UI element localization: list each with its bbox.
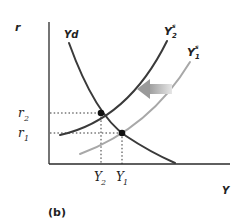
tick-label-y2: Y 2 xyxy=(94,170,106,187)
tick-label-r2: r 2 xyxy=(18,106,29,123)
equilibrium-point-2 xyxy=(98,110,105,117)
x-axis-label: Y xyxy=(222,185,231,196)
supply-curve-y1-label: Y s 1 xyxy=(187,43,200,61)
supply-curve-y1 xyxy=(80,62,190,154)
svg-text:2: 2 xyxy=(172,32,177,40)
demand-curve-label: Yd xyxy=(64,29,79,40)
svg-text:s: s xyxy=(195,43,199,50)
equilibrium-point-1 xyxy=(119,130,126,137)
svg-text:2: 2 xyxy=(100,178,106,187)
svg-text:2: 2 xyxy=(23,114,29,123)
panel-label: (b) xyxy=(48,206,66,219)
tick-label-r1: r 1 xyxy=(18,126,29,143)
svg-text:1: 1 xyxy=(123,178,128,187)
svg-text:1: 1 xyxy=(195,53,200,61)
tick-label-y1: Y 1 xyxy=(116,170,128,187)
svg-text:s: s xyxy=(172,22,176,29)
svg-text:1: 1 xyxy=(24,134,29,143)
economics-diagram: r Y Yd Y s 2 Y s 1 r 2 r 1 Y xyxy=(0,0,240,222)
y-axis-label: r xyxy=(15,21,21,34)
supply-curve-y2-label: Y s 2 xyxy=(164,22,177,40)
